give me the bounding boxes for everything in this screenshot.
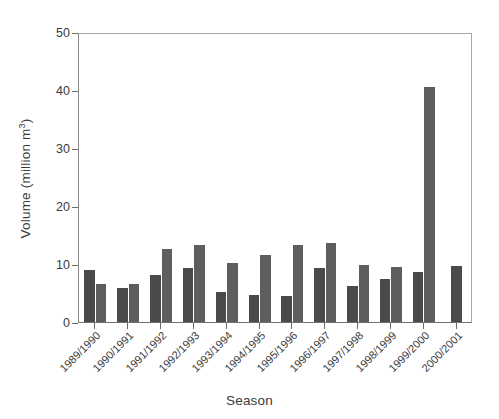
bar — [391, 267, 402, 322]
bar — [260, 255, 271, 322]
y-axis-tick-label: 0 — [63, 316, 70, 330]
y-axis-tick-label: 30 — [56, 142, 70, 156]
y-axis-tick-label: 40 — [56, 84, 70, 98]
bar — [183, 268, 194, 322]
bar — [216, 292, 227, 322]
bar — [326, 243, 337, 322]
x-axis-tick-labels: 1989/19901990/19911991/19921992/19931993… — [0, 329, 499, 385]
bar-series-container — [79, 34, 471, 322]
bar — [84, 270, 95, 322]
y-axis-title: Volume (million m3) — [14, 33, 38, 323]
y-axis-tick-label: 20 — [56, 200, 70, 214]
bar — [162, 249, 173, 322]
bar-chart-figure: Volume (million m3) 01020304050 1989/199… — [0, 0, 499, 419]
y-axis-title-text: Volume (million m — [19, 128, 34, 238]
bar — [194, 245, 205, 322]
bar — [293, 245, 304, 322]
y-axis-title-exponent: 3 — [17, 123, 27, 128]
y-axis-tick-label: 50 — [56, 26, 70, 40]
bar — [150, 275, 161, 322]
plot-area — [78, 33, 472, 323]
bar — [413, 272, 424, 322]
y-axis-title-suffix: ) — [19, 118, 34, 123]
bar — [227, 263, 238, 322]
bar — [281, 296, 292, 322]
bar — [380, 279, 391, 323]
bar — [96, 284, 107, 322]
bar — [129, 284, 140, 322]
bar — [347, 286, 358, 322]
bar — [249, 295, 260, 322]
x-axis-title: Season — [0, 393, 499, 408]
bar — [451, 266, 462, 322]
bar — [359, 265, 370, 322]
bar — [117, 288, 128, 322]
y-axis-tick-labels: 01020304050 — [40, 33, 70, 323]
bar — [424, 87, 435, 322]
bar — [314, 268, 325, 322]
y-axis-tick-label: 10 — [56, 258, 70, 272]
